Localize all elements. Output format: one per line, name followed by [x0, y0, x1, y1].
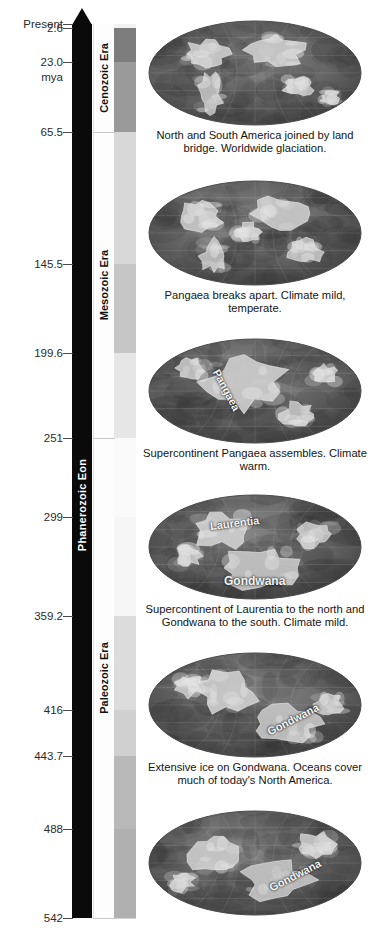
axis-tick-mark	[63, 132, 73, 133]
axis-tick-mark	[63, 517, 73, 518]
axis-tick-label: 299	[44, 511, 63, 523]
panel-cretaceous: Pangaea breaks apart. Climate mild, temp…	[139, 180, 371, 316]
axis-tick-mark	[63, 264, 73, 265]
period-band	[114, 710, 136, 757]
axis-tick-label: 145.5	[34, 258, 63, 270]
paleogeographic-map: Gondwana	[148, 652, 362, 758]
axis-tick-label: 488	[44, 823, 63, 835]
era-divider	[93, 132, 115, 133]
axis-tick-mark	[63, 353, 73, 354]
axis-tick-label: 2.6	[47, 22, 63, 34]
axis-tick-mark	[63, 28, 73, 29]
paleogeographic-map: Gondwana	[148, 810, 362, 916]
axis-tick-mark	[63, 710, 73, 711]
axis-tick-label: 416	[44, 704, 63, 716]
period-band	[114, 62, 136, 133]
eon-label: Phanerozoic Eon	[72, 430, 92, 580]
geologic-timescale-figure: Present2.623.065.5145.5199.6251299359.24…	[0, 0, 371, 951]
axis-units-label: mya	[41, 71, 63, 83]
panel-caption: Supercontinent of Laurentia to the north…	[139, 603, 371, 630]
panel-caption: North and South America joined by land b…	[139, 129, 371, 156]
period-band	[114, 829, 136, 919]
axis-tick-label: 542	[44, 912, 63, 924]
paleogeographic-map: LaurentiaGondwana	[148, 494, 362, 600]
axis-tick-label: 65.5	[41, 126, 63, 138]
era-label: Paleozoic Era	[98, 642, 110, 714]
timeline-arrow-icon	[72, 8, 92, 25]
period-band	[114, 353, 136, 439]
panel-caption: Pangaea breaks apart. Climate mild, temp…	[139, 289, 371, 316]
era-label: Mesozoic Era	[98, 250, 110, 320]
era-segment: Paleozoic Era	[94, 438, 114, 918]
map-region-label: Gondwana	[224, 574, 285, 588]
axis-tick-mark	[63, 829, 73, 830]
period-band-column	[114, 8, 136, 918]
era-segment: Cenozoic Era	[94, 24, 114, 132]
timescale-axis: Present2.623.065.5145.5199.6251299359.24…	[0, 0, 63, 951]
era-label: Cenozoic Era	[98, 43, 110, 113]
era-segment: Mesozoic Era	[94, 132, 114, 438]
axis-tick-mark	[63, 24, 73, 25]
era-column: Cenozoic EraMesozoic EraPaleozoic Era	[93, 24, 115, 918]
axis-tick-label: 199.6	[34, 347, 63, 359]
axis-tick-label: 443.7	[34, 750, 63, 762]
axis-tick-mark	[63, 438, 73, 439]
axis-tick-mark	[63, 616, 73, 617]
axis-tick-label: 251	[44, 432, 63, 444]
axis-tick-mark	[63, 918, 73, 919]
axis-tick-mark	[63, 62, 73, 63]
period-band	[114, 517, 136, 617]
period-band	[114, 616, 136, 711]
paleogeographic-map: Pangaea	[148, 338, 362, 444]
panel-caption: Extensive ice on Gondwana. Oceans cover …	[139, 761, 371, 788]
panel-cambrian: Gondwana	[139, 810, 371, 916]
era-divider	[93, 918, 115, 919]
paleogeographic-map	[148, 20, 362, 126]
panel-caption: Supercontinent Pangaea assembles. Climat…	[139, 447, 371, 474]
period-band	[114, 438, 136, 518]
period-band	[114, 132, 136, 265]
paleogeographic-map	[148, 180, 362, 286]
panel-triassic: PangaeaSupercontinent Pangaea assembles.…	[139, 338, 371, 474]
panel-cenozoic: North and South America joined by land b…	[139, 20, 371, 156]
panel-ordovician: GondwanaExtensive ice on Gondwana. Ocean…	[139, 652, 371, 788]
axis-tick-label: 23.0	[41, 56, 63, 68]
axis-tick-mark	[63, 756, 73, 757]
panel-carboniferous: LaurentiaGondwanaSupercontinent of Laure…	[139, 494, 371, 630]
period-band	[114, 756, 136, 830]
period-band	[114, 28, 136, 63]
axis-tick-label: 359.2	[34, 610, 63, 622]
era-divider	[93, 438, 115, 439]
period-band	[114, 264, 136, 354]
